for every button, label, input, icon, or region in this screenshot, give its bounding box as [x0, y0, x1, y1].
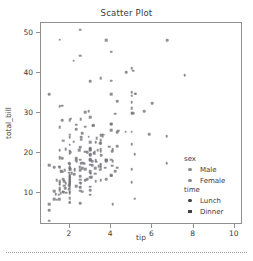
- scatter-point: [69, 119, 72, 122]
- scatter-point: [96, 137, 99, 140]
- scatter-point: [86, 178, 89, 181]
- scatter-point: [55, 193, 58, 196]
- legend-item-lunch[interactable]: Lunch: [184, 195, 240, 206]
- scatter-point: [110, 93, 113, 96]
- y-tick-mark: [36, 112, 40, 113]
- y-tick-label: 10: [0, 188, 33, 197]
- legend-marker-square-icon: [184, 210, 196, 213]
- scatter-point: [48, 219, 51, 222]
- scatter-point: [99, 77, 102, 80]
- y-tick-mark: [36, 152, 40, 153]
- scatter-point: [68, 162, 71, 165]
- scatter-point: [116, 131, 119, 134]
- scatter-point: [48, 164, 51, 167]
- scatter-point: [110, 123, 113, 126]
- scatter-point: [69, 178, 72, 181]
- scatter-point: [89, 163, 92, 166]
- scatter-point: [58, 126, 61, 129]
- x-tick-mark: [234, 224, 235, 228]
- scatter-point: [108, 145, 111, 148]
- scatter-point: [143, 110, 146, 113]
- scatter-point: [94, 173, 97, 176]
- scatter-point: [58, 157, 61, 160]
- scatter-point: [79, 179, 82, 182]
- legend-label-female: Female: [196, 177, 225, 185]
- scatter-point: [111, 164, 114, 167]
- scatter-point: [63, 184, 66, 187]
- scatter-point: [105, 39, 108, 42]
- x-axis-title: tip: [136, 233, 146, 242]
- scatter-point: [72, 140, 75, 143]
- legend-marker-circle-dark-icon: [184, 199, 196, 203]
- scatter-point: [79, 118, 82, 121]
- scatter-point: [100, 134, 103, 137]
- scatter-point: [69, 166, 72, 169]
- scatter-point: [84, 125, 87, 128]
- scatter-point: [134, 92, 137, 95]
- scatter-point: [83, 163, 86, 166]
- scatter-point: [48, 203, 51, 206]
- legend-item-female[interactable]: Female: [184, 175, 240, 186]
- matplotlib-figure: Scatter Plot 1020304050246810 total_bill…: [0, 0, 253, 247]
- scatter-point: [111, 150, 114, 153]
- scatter-point: [89, 185, 92, 188]
- x-tick-mark: [193, 224, 194, 228]
- scatter-point: [88, 135, 91, 138]
- scatter-point: [110, 50, 113, 53]
- scatter-point: [79, 146, 82, 149]
- scatter-point: [88, 110, 91, 113]
- scatter-point: [69, 143, 72, 146]
- scatter-point: [99, 162, 102, 165]
- scatter-point: [166, 39, 169, 42]
- scatter-point: [61, 104, 64, 107]
- scatter-point: [58, 180, 61, 183]
- scatter-point: [75, 124, 78, 127]
- scatter-point: [94, 167, 97, 170]
- legend: sex Male Female time Lunch Dinner: [184, 155, 240, 217]
- x-tick-label: 6: [149, 229, 154, 238]
- x-tick-mark: [151, 224, 152, 228]
- scatter-point: [105, 160, 108, 163]
- scatter-point: [84, 111, 87, 114]
- y-tick-label: 40: [0, 68, 33, 77]
- scatter-point: [69, 183, 72, 186]
- scatter-point: [58, 198, 61, 201]
- x-tick-mark: [69, 224, 70, 228]
- scatter-point: [114, 170, 117, 173]
- legend-item-dinner[interactable]: Dinner: [184, 206, 240, 217]
- scatter-point: [133, 153, 136, 156]
- scatter-point: [110, 174, 113, 177]
- scatter-point: [74, 168, 77, 171]
- y-tick-mark: [36, 32, 40, 33]
- scatter-point: [48, 209, 51, 212]
- scatter-point: [84, 168, 87, 171]
- scatter-point: [130, 181, 133, 184]
- legend-group-title-time: time: [184, 186, 240, 194]
- scatter-point: [48, 93, 51, 96]
- scatter-point: [148, 133, 151, 136]
- scatter-point: [79, 202, 82, 205]
- legend-marker-circle-icon: [184, 179, 196, 182]
- scatter-point: [53, 166, 56, 169]
- scatter-point: [79, 189, 82, 192]
- x-tick-label: 10: [229, 229, 239, 238]
- scatter-point: [92, 151, 95, 154]
- scatter-point: [62, 139, 65, 142]
- scatter-point: [79, 169, 82, 172]
- x-tick-label: 2: [66, 229, 71, 238]
- scatter-point: [73, 173, 76, 176]
- page-title: Scatter Plot: [0, 8, 253, 18]
- scatter-point: [91, 160, 94, 163]
- scatter-point: [55, 179, 58, 182]
- x-tick-label: 8: [190, 229, 195, 238]
- scatter-point: [130, 168, 133, 171]
- legend-item-male[interactable]: Male: [184, 164, 240, 175]
- scatter-point: [79, 175, 82, 178]
- scatter-point: [94, 180, 97, 183]
- scatter-point: [94, 159, 97, 162]
- scatter-point: [92, 124, 95, 127]
- scatter-point: [63, 180, 66, 183]
- scatter-point: [130, 95, 133, 98]
- scatter-point: [130, 91, 133, 94]
- scatter-point: [184, 74, 187, 77]
